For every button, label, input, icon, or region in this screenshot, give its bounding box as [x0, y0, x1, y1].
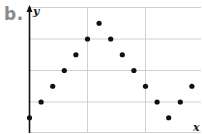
data-point — [178, 99, 183, 104]
grid-lines — [30, 8, 202, 134]
data-point — [120, 52, 125, 57]
axes — [27, 5, 33, 133]
data-point — [73, 52, 78, 57]
data-point — [108, 36, 113, 41]
data-point — [85, 36, 90, 41]
data-point — [131, 68, 136, 73]
y-axis-label: y — [32, 5, 41, 18]
data-point — [155, 99, 160, 104]
y-axis-arrow-icon — [27, 5, 33, 12]
data-point — [27, 115, 32, 120]
data-point — [97, 21, 102, 26]
data-point — [166, 115, 171, 120]
data-point — [62, 68, 67, 73]
data-point — [189, 84, 194, 89]
data-point — [39, 99, 44, 104]
x-axis-label: x — [192, 121, 200, 133]
data-point — [143, 84, 148, 89]
scatter-chart: x y — [0, 0, 201, 133]
data-point — [50, 84, 55, 89]
